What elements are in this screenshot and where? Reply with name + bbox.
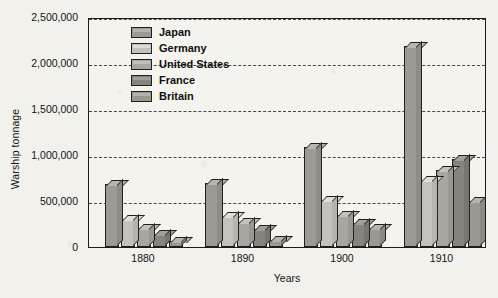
chart-legend: JapanGermanyUnited StatesFranceBritain [131,25,229,104]
bar-group [388,19,486,247]
bar-germany-1900 [320,200,334,247]
bar-side-face [448,165,454,246]
legend-label: United States [159,59,229,70]
legend-swatch-highlight [133,77,150,80]
bar-side-face [380,223,386,246]
bar-japan-1890 [205,183,219,247]
x-axis-title-label: Years [274,272,300,284]
y-axis-tick-label: 2,000,000 [0,58,78,68]
bar-germany-1880 [121,219,135,247]
legend-item-united-states: United States [131,57,229,72]
legend-swatch-highlight [133,93,150,96]
bar-side-face [332,195,338,246]
legend-swatch-highlight [133,61,150,64]
bar-france-1900 [352,223,366,247]
legend-swatch-icon [131,59,152,70]
y-axis-tick-label: 0 [0,242,78,252]
bar-japan-1910 [404,46,418,247]
legend-swatch-icon [131,27,152,38]
bar-britain-1880 [169,241,183,247]
legend-swatch-icon [131,75,152,86]
plot-inner: JapanGermanyUnited StatesFranceBritain [89,19,485,247]
legend-item-france: France [131,73,229,88]
bar-france-1880 [153,234,167,247]
bar-japan-1880 [105,184,119,247]
y-axis-title-label: Warship tonnage [9,109,21,190]
bar-side-face [432,175,438,246]
bar-britain-1890 [269,240,283,247]
y-axis-tick-label: 1,000,000 [0,150,78,160]
bar-side-face [117,179,123,246]
warship-tonnage-bar-chart: Warship tonnage 0500,0001,000,0001,500,0… [0,0,498,298]
legend-label: Britain [159,91,194,102]
legend-swatch-icon [131,91,152,102]
bar-united-states-1900 [336,215,350,247]
y-axis-tick-label: 1,500,000 [0,104,78,114]
legend-item-germany: Germany [131,41,229,56]
legend-item-japan: Japan [131,25,229,40]
bar-side-face [416,41,422,246]
y-axis-title: Warship tonnage [6,0,24,298]
bar-side-face [348,210,354,246]
bar-group [288,19,388,247]
bar-side-face [217,178,223,246]
bar-side-face [316,142,322,246]
bar-japan-1900 [304,147,318,247]
x-axis-tick-label: 1890 [203,252,283,264]
bar-united-states-1880 [137,228,151,247]
legend-swatch-highlight [133,45,150,48]
legend-item-britain: Britain [131,89,229,104]
x-axis-tick-label: 1900 [302,252,382,264]
legend-swatch-icon [131,43,152,54]
x-axis-title: Years [88,272,486,284]
y-axis-tick-label: 500,000 [0,196,78,206]
y-axis-tick-label: 2,500,000 [0,12,78,22]
legend-label: France [159,75,195,86]
bar-britain-1900 [368,228,382,247]
x-axis-tick-label: 1910 [402,252,482,264]
x-axis-tick-label: 1880 [103,252,183,264]
legend-label: Japan [159,27,191,38]
plot-area: JapanGermanyUnited StatesFranceBritain [88,18,486,248]
bar-side-face [480,196,486,246]
bar-side-face [233,211,239,246]
bar-side-face [464,154,470,246]
legend-swatch-highlight [133,29,150,32]
legend-label: Germany [159,43,207,54]
